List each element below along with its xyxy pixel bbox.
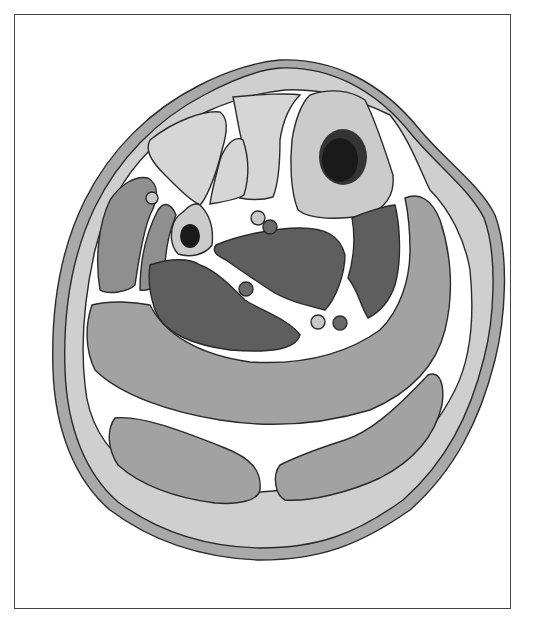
tibia-marrow: [319, 129, 367, 185]
leg-cross-section-diagram: [0, 0, 554, 630]
fibula-marrow: [180, 224, 200, 248]
neurovascular-bundle-peroneal: [239, 282, 253, 296]
neurovascular-bundle-lateral: [146, 192, 158, 204]
